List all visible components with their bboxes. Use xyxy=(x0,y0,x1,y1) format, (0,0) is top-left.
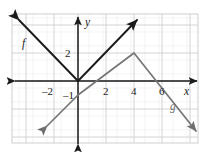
curve-label-g: g xyxy=(170,100,176,113)
coordinate-graph: f g y x –2 2 4 6 2 –1 xyxy=(0,0,212,157)
x-tick-label-neg2: –2 xyxy=(41,85,53,97)
y-tick-label-neg1: –1 xyxy=(62,89,74,101)
x-tick-label-2: 2 xyxy=(103,85,109,97)
x-axis-label: x xyxy=(183,85,190,97)
graph-figure: f g y x –2 2 4 6 2 –1 xyxy=(0,0,212,157)
plot-background xyxy=(12,14,198,143)
y-tick-label-2: 2 xyxy=(65,47,71,59)
x-tick-label-4: 4 xyxy=(131,85,137,97)
x-tick-label-6: 6 xyxy=(159,85,165,97)
y-axis-label: y xyxy=(84,16,91,29)
